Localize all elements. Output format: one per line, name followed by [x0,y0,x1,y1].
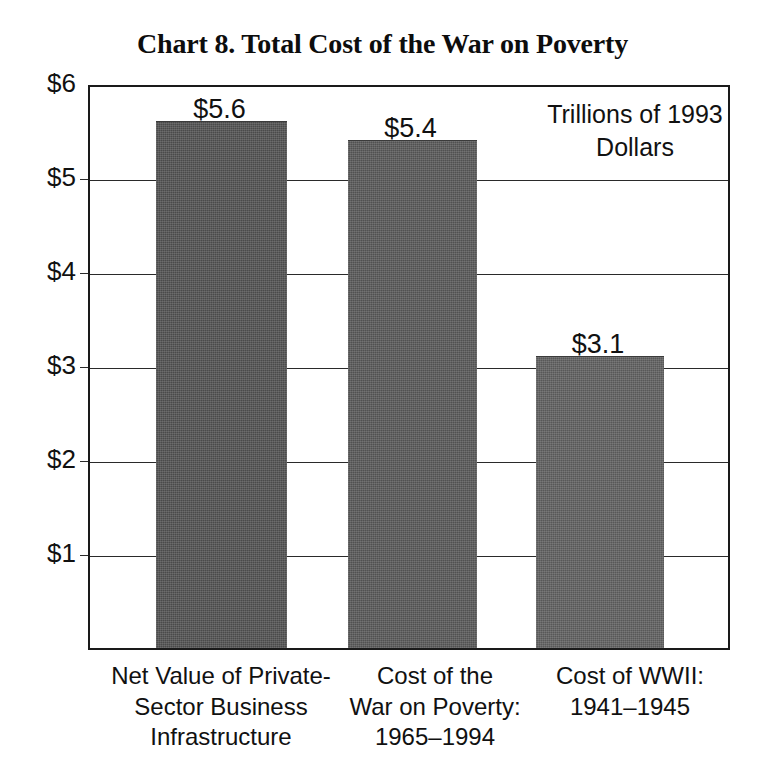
x-category-label-1-line-2: Sector Business [90,692,352,723]
x-category-label-1-line-3: Infrastructure [90,722,352,753]
units-annotation: Trillions of 1993 Dollars [540,98,730,164]
y-tick-mark-3 [80,367,88,368]
x-category-label-3-line-1: Cost of WWII: [515,661,745,692]
y-tick-mark-4 [80,273,88,274]
bar-value-label-2: $5.4 [346,115,475,142]
y-tick-label-6: $6 [18,70,76,96]
x-category-label-3-line-2: 1941–1945 [515,692,745,723]
bar-cost-war-on-poverty [348,140,477,648]
y-tick-label-1: $1 [18,540,76,566]
x-category-label-1: Net Value of Private- Sector Business In… [90,661,352,753]
y-tick-label-4: $4 [18,258,76,284]
x-category-label-1-line-1: Net Value of Private- [90,661,352,692]
y-tick-mark-5 [80,179,88,180]
y-tick-label-5: $5 [18,164,76,190]
units-annotation-line-1: Trillions of [547,100,660,128]
bar-value-label-1: $5.6 [154,96,285,123]
bar-net-value-private-sector-infrastructure [156,121,287,648]
bar-value-label-3: $3.1 [534,331,662,358]
plot-area [88,85,730,650]
x-category-label-2-line-3: 1965–1994 [320,722,550,753]
y-tick-mark-2 [80,461,88,462]
y-tick-label-3: $3 [18,352,76,378]
y-tick-label-2: $2 [18,446,76,472]
y-tick-mark-1 [80,555,88,556]
bar-cost-wwii [536,356,664,648]
x-category-label-3: Cost of WWII: 1941–1945 [515,661,745,722]
